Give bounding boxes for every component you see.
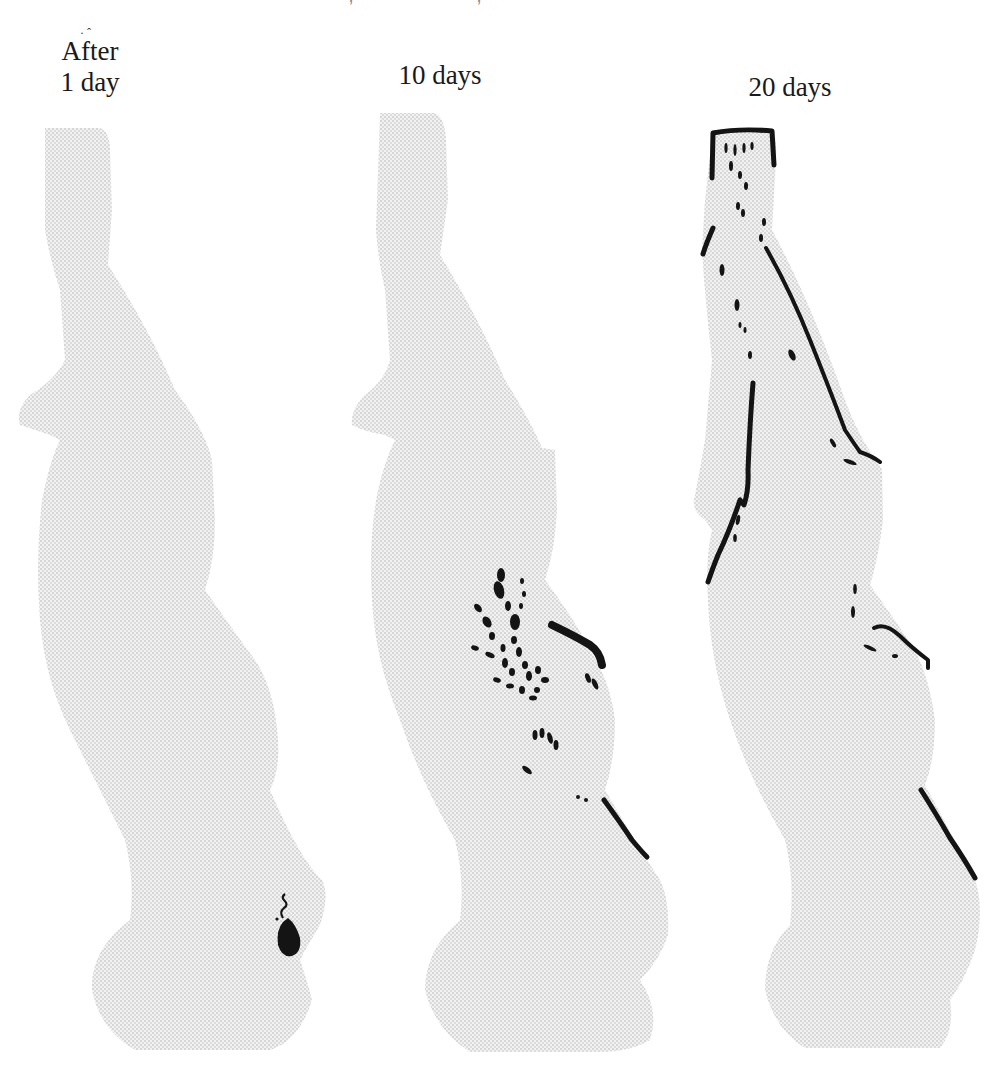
panel-3-silhouette: [694, 130, 980, 1048]
panel-3: [694, 130, 980, 1048]
panel-1-lesion-dot: [275, 917, 278, 920]
panel-2-silhouette: [352, 113, 669, 1052]
panel-2: [352, 113, 669, 1052]
panel-1-silhouette: [19, 128, 326, 1050]
panel-1: [19, 128, 326, 1050]
figure-canvas: [0, 0, 1000, 1067]
